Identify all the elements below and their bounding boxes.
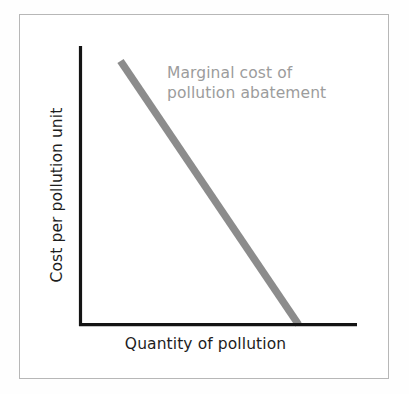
curve-annotation-label: Marginal cost of pollution abatement: [167, 63, 357, 103]
figure-root: Marginal cost of pollution abatement Qua…: [0, 0, 409, 394]
y-axis-label: Cost per pollution unit: [49, 108, 66, 283]
x-axis-label: Quantity of pollution: [0, 336, 409, 353]
